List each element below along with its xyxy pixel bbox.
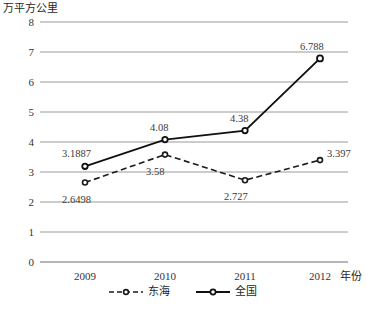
legend-solid-line-icon bbox=[196, 287, 230, 297]
legend-item-donghai[interactable]: 东海 bbox=[109, 286, 170, 297]
data-label-quanguo-2010: 4.08 bbox=[150, 122, 168, 133]
data-label-donghai-2012: 3.397 bbox=[327, 148, 351, 159]
data-label-donghai-2011: 2.727 bbox=[224, 191, 248, 202]
legend-dashed-line-icon bbox=[109, 287, 143, 297]
chart-container: 万平方公里 8 7 6 5 4 3 2 1 0 bbox=[0, 0, 366, 312]
legend: 东海 全国 bbox=[0, 286, 366, 297]
series-donghai bbox=[83, 152, 323, 185]
data-label-quanguo-2009: 3.1887 bbox=[62, 148, 91, 159]
x-tick-2012: 2012 bbox=[300, 271, 340, 282]
gridlines bbox=[40, 22, 348, 262]
data-label-quanguo-2012: 6.788 bbox=[300, 41, 324, 52]
x-tick-2011: 2011 bbox=[225, 271, 265, 282]
data-label-donghai-2010: 3.58 bbox=[146, 166, 164, 177]
legend-label-quanguo: 全国 bbox=[235, 286, 257, 297]
x-tick-2010: 2010 bbox=[145, 271, 185, 282]
data-label-quanguo-2011: 4.38 bbox=[230, 113, 248, 124]
legend-label-donghai: 东海 bbox=[148, 286, 170, 297]
x-tick-2009: 2009 bbox=[65, 271, 105, 282]
x-axis-title: 年份 bbox=[340, 271, 362, 282]
legend-item-quanguo[interactable]: 全国 bbox=[196, 286, 257, 297]
data-label-donghai-2009: 2.6498 bbox=[62, 194, 91, 205]
